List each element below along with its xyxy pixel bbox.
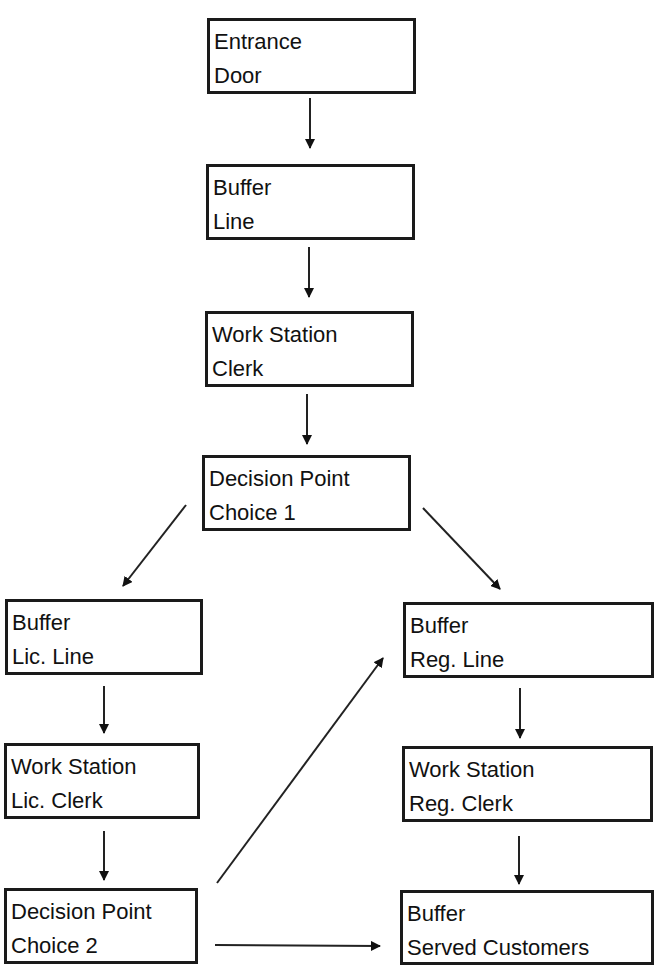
node-label: Buffer [410,609,651,643]
node-label: Buffer [213,171,412,205]
node-label: Entrance [214,25,413,59]
node-label: Served Customers [407,931,651,965]
node-work-station-reg-clerk: Work Station Reg. Clerk [402,746,653,822]
node-label: Clerk [212,352,411,386]
arrow-icon [423,508,500,589]
node-label: Lic. Clerk [11,784,197,818]
arrow-icon [215,945,380,946]
node-label: Work Station [11,750,197,784]
node-decision-point-1: Decision Point Choice 1 [202,455,411,531]
node-label: Buffer [407,897,651,931]
node-label: Line [213,205,412,239]
node-label: Lic. Line [12,640,200,674]
node-label: Reg. Line [410,643,651,677]
node-label: Decision Point [209,462,408,496]
node-label: Work Station [409,753,650,787]
node-buffer-served-customers: Buffer Served Customers [400,890,654,965]
node-label: Choice 1 [209,496,408,530]
node-label: Door [214,59,413,93]
node-buffer-reg-line: Buffer Reg. Line [403,602,654,678]
node-buffer-lic-line: Buffer Lic. Line [5,599,203,675]
node-work-station-lic-clerk: Work Station Lic. Clerk [4,743,200,819]
node-entrance-door: Entrance Door [207,18,416,94]
arrow-icon [123,505,186,586]
node-work-station-clerk: Work Station Clerk [205,311,414,387]
node-label: Buffer [12,606,200,640]
node-label: Work Station [212,318,411,352]
node-label: Decision Point [11,895,195,929]
arrow-icon [217,658,383,883]
node-decision-point-2: Decision Point Choice 2 [4,888,198,964]
node-label: Choice 2 [11,929,195,963]
node-label: Reg. Clerk [409,787,650,821]
node-buffer-line: Buffer Line [206,164,415,240]
